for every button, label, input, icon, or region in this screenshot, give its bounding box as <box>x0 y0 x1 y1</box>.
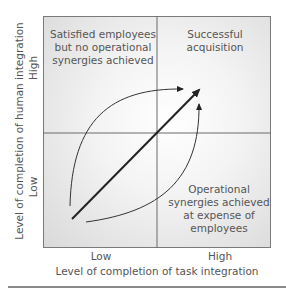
quadrant-text-line: synergies achieved <box>168 196 270 209</box>
bottom-rule <box>8 286 286 288</box>
quadrant-text-line: acquisition <box>165 41 265 54</box>
human-first-arrow <box>70 89 183 206</box>
quadrant-text-line: Operational <box>168 183 270 196</box>
quadrant-text-line: at expense of <box>168 209 270 222</box>
quadrant-top-left: Satisfied employees but no operational s… <box>48 28 158 67</box>
x-tick-low: Low <box>91 250 112 262</box>
x-tick-high: High <box>208 250 232 262</box>
quadrant-text-line: Successful <box>165 28 265 41</box>
quadrant-text-line: synergies achieved <box>48 54 158 67</box>
quadrant-text-line: employees <box>168 222 270 235</box>
quadrant-text-line: but no operational <box>48 41 158 54</box>
quadrant-text-line: Satisfied employees <box>48 28 158 41</box>
y-axis-label: Level of completion of human integration <box>13 22 25 240</box>
x-axis-label: Level of completion of task integration <box>55 265 258 277</box>
quadrant-bottom-right: Operational synergies achieved at expens… <box>168 183 270 235</box>
quadrant-top-right: Successful acquisition <box>165 28 265 54</box>
y-tick-low: Low <box>27 177 39 198</box>
y-tick-high: High <box>27 56 39 80</box>
